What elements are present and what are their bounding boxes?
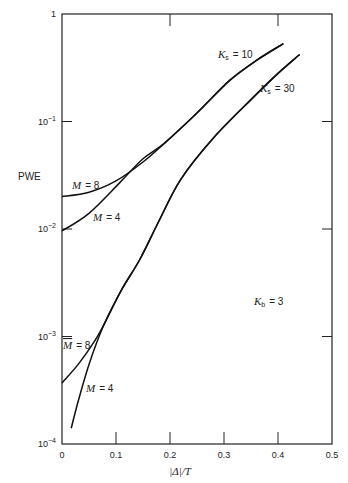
- svg-text:Ks= 10: Ks= 10: [217, 48, 253, 61]
- curve-ks-30-m-4: [71, 55, 299, 429]
- x-axis-ticks: 00.10.20.30.40.5: [59, 432, 338, 460]
- x-tick-label: 0.5: [326, 450, 339, 460]
- svg-text:M= 8: M= 8: [62, 339, 91, 351]
- x-tick-label: 0.1: [110, 450, 123, 460]
- x-tick-label: 0.2: [164, 450, 177, 460]
- x-axis-label: |Δ|/T: [169, 465, 192, 477]
- svg-text:M= 8: M= 8: [71, 179, 100, 191]
- y-tick-label: 1: [51, 9, 56, 19]
- curves: [62, 44, 300, 429]
- pwe-chart: 00.10.20.30.40.5 110−110−210−310−4 PWE |…: [0, 0, 348, 483]
- svg-text:M= 4: M= 4: [92, 211, 121, 223]
- annotation-ks30: Ks= 30: [259, 82, 295, 95]
- annotation-m8-lower: M= 8: [62, 339, 91, 351]
- annotation-m4-lower: M= 4: [85, 382, 114, 394]
- y-tick-label: 10−3: [38, 330, 56, 342]
- annotation-kb: Kb= 3: [253, 295, 284, 308]
- y-axis-ticks: 110−110−210−310−4: [38, 9, 332, 449]
- y-tick-label: 10−2: [38, 222, 56, 234]
- annotation-ks10: Ks= 10: [217, 48, 253, 61]
- curve-ks-10-m-4: [62, 44, 283, 231]
- y-tick-label: 10−4: [38, 437, 56, 449]
- svg-text:M= 4: M= 4: [85, 382, 114, 394]
- x-tick-label: 0.4: [272, 450, 285, 460]
- x-tick-label: 0: [59, 450, 64, 460]
- annotation-m8-upper: M= 8: [71, 179, 100, 191]
- annotation-m4-upper: M= 4: [92, 211, 121, 223]
- svg-text:Ks= 30: Ks= 30: [259, 82, 295, 95]
- plot-frame: [62, 14, 332, 444]
- y-tick-label: 10−1: [38, 115, 56, 127]
- curve-ks-10-m-8: [62, 44, 283, 197]
- svg-text:Kb= 3: Kb= 3: [253, 295, 284, 308]
- y-axis-label: PWE: [18, 171, 41, 182]
- x-tick-label: 0.3: [218, 450, 231, 460]
